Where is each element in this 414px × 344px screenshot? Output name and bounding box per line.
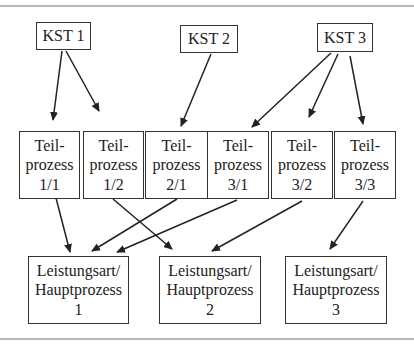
main-process-line2: Hauptprozess [292,280,379,300]
main-process-line1: Leistungsart/ [37,261,121,281]
cost-center-kst3: KST 3 [317,23,373,52]
main-process-number: 1 [75,300,83,320]
main-process-number: 3 [332,300,340,320]
edge-kst3-tp33 [350,56,363,124]
main-process-3: Leistungsart/ Hauptprozess 3 [285,256,387,324]
sub-process-3-1: Teil- prozess 3/1 [207,131,269,199]
sub-process-3-3: Teil- prozess 3/3 [334,131,396,199]
sub-process-line1: Teil- [223,136,253,156]
cost-center-label: KST 1 [43,26,85,46]
sub-process-line2: prozess [341,155,389,175]
sub-process-line2: prozess [278,155,326,175]
cost-center-kst2: KST 2 [180,25,238,53]
main-process-number: 2 [206,300,214,320]
cost-center-label: KST 2 [188,29,230,49]
sub-process-1-2: Teil- prozess 1/2 [83,131,144,199]
sub-process-line1: Teil- [350,136,380,156]
edge-tp31-hp1 [117,200,237,252]
sub-process-line1: Teil- [35,136,65,156]
edge-kst3-tp32 [309,54,338,117]
sub-process-line2: prozess [214,155,262,175]
edge-tp11-hp1 [56,198,70,252]
edge-kst3-tp31 [252,53,331,127]
sub-process-3-2: Teil- prozess 3/2 [271,131,333,199]
edge-tp33-hp3 [330,201,363,249]
sub-process-number: 3/3 [355,175,375,195]
main-process-1: Leistungsart/ Hauptprozess 1 [28,256,129,324]
main-process-line1: Leistungsart/ [168,261,252,281]
edge-kst1-tp11 [53,51,62,120]
main-process-line1: Leistungsart/ [294,261,378,281]
cost-center-label: KST 3 [324,28,366,48]
sub-process-number: 3/2 [292,175,312,195]
sub-process-number: 1/2 [103,175,123,195]
edge-tp32-hp2 [212,201,302,251]
sub-process-1-1: Teil- prozess 1/1 [19,131,80,199]
sub-process-number: 1/1 [39,175,59,195]
sub-process-line2: prozess [26,155,74,175]
sub-process-line1: Teil- [99,136,129,156]
sub-process-2-1: Teil- prozess 2/1 [145,131,208,199]
sub-process-line2: prozess [90,155,138,175]
edge-kst2-tp21 [181,54,211,126]
main-process-line2: Hauptprozess [35,280,122,300]
edge-kst1-tp12 [66,51,99,111]
main-process-2: Leistungsart/ Hauptprozess 2 [159,256,261,324]
sub-process-line2: prozess [153,155,201,175]
sub-process-number: 3/1 [228,175,248,195]
sub-process-line1: Teil- [162,136,192,156]
sub-process-line1: Teil- [287,136,317,156]
main-process-line2: Hauptprozess [166,280,253,300]
cost-center-kst1: KST 1 [36,22,91,50]
sub-process-number: 2/1 [166,175,186,195]
